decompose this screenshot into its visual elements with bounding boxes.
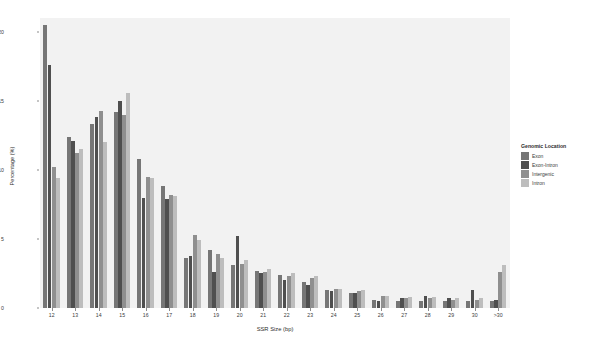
bar — [103, 142, 107, 308]
plot-area — [40, 18, 510, 308]
bar-group — [43, 18, 60, 308]
x-axis-tick-mark — [169, 308, 170, 311]
x-axis-tick-label: 27 — [401, 312, 407, 318]
x-axis-tick-label: >30 — [494, 312, 503, 318]
bar — [432, 297, 436, 308]
legend-items: ExonExon-IntronIntergenicIntron — [521, 152, 591, 187]
x-axis-title: SSR Size (bp) — [40, 326, 510, 332]
x-axis-tick-label: 17 — [166, 312, 172, 318]
x-axis-tick-mark — [334, 308, 335, 311]
y-axis-tick-mark — [37, 238, 39, 239]
bar-group — [372, 18, 389, 308]
bar — [408, 297, 412, 308]
legend-swatch-icon — [521, 161, 529, 169]
y-axis-tick-label: 15 — [0, 98, 4, 104]
y-axis-tick-label: 20 — [0, 29, 4, 35]
bar-group — [90, 18, 107, 308]
bar — [314, 276, 318, 308]
bar — [197, 240, 201, 308]
bar — [56, 178, 60, 308]
legend-item-label: Intergenic — [532, 171, 554, 177]
x-axis-tick-label: 12 — [49, 312, 55, 318]
x-axis-tick-mark — [451, 308, 452, 311]
x-axis-tick-label: 16 — [143, 312, 149, 318]
bar-group — [184, 18, 201, 308]
bar — [126, 93, 130, 308]
legend-item-label: Intron — [532, 180, 545, 186]
bar — [291, 273, 295, 308]
x-axis-tick-mark — [263, 308, 264, 311]
bar — [479, 298, 483, 308]
legend-swatch-icon — [521, 170, 529, 178]
y-axis-tick-mark — [37, 100, 39, 101]
bar-group — [278, 18, 295, 308]
x-axis-tick-label: 20 — [237, 312, 243, 318]
y-axis-tick-label: 0 — [1, 305, 4, 311]
legend-item-label: Exon-Intron — [532, 162, 558, 168]
y-axis: 05101520 — [0, 0, 40, 348]
x-axis-tick-mark — [357, 308, 358, 311]
x-axis-tick-label: 22 — [284, 312, 290, 318]
y-axis-tick-label: 10 — [0, 167, 4, 173]
bar-group — [419, 18, 436, 308]
legend-item[interactable]: Intergenic — [521, 170, 591, 178]
legend-swatch-icon — [521, 152, 529, 160]
x-axis-tick-mark — [498, 308, 499, 311]
bar — [361, 290, 365, 308]
bar — [338, 289, 342, 308]
x-axis-tick-label: 21 — [260, 312, 266, 318]
bar-group — [137, 18, 154, 308]
x-axis-tick-mark — [52, 308, 53, 311]
legend-swatch-icon — [521, 179, 529, 187]
x-axis-tick-mark — [404, 308, 405, 311]
bar-group — [302, 18, 319, 308]
bar — [385, 296, 389, 308]
x-axis-tick-label: 14 — [96, 312, 102, 318]
bar-group — [208, 18, 225, 308]
bar-group — [161, 18, 178, 308]
x-axis-tick-label: 18 — [190, 312, 196, 318]
bar-group — [67, 18, 84, 308]
bar-group — [349, 18, 366, 308]
x-axis-tick-label: 26 — [378, 312, 384, 318]
x-axis-tick-label: 15 — [119, 312, 125, 318]
legend-item[interactable]: Exon-Intron — [521, 161, 591, 169]
x-axis-tick-label: 13 — [72, 312, 78, 318]
x-axis-tick-label: 28 — [425, 312, 431, 318]
x-axis-tick-mark — [146, 308, 147, 311]
bar-group — [255, 18, 272, 308]
x-axis-tick-mark — [99, 308, 100, 311]
x-axis-tick-label: 30 — [472, 312, 478, 318]
x-axis-tick-label: 19 — [213, 312, 219, 318]
bar — [455, 298, 459, 308]
y-axis-tick-mark — [37, 308, 39, 309]
chart-figure: 05101520 Percentage (%) SSR Size (bp) Ge… — [0, 0, 595, 348]
legend-item[interactable]: Intron — [521, 179, 591, 187]
bar — [173, 196, 177, 308]
legend-item[interactable]: Exon — [521, 152, 591, 160]
x-axis-tick-mark — [193, 308, 194, 311]
x-axis-tick-mark — [240, 308, 241, 311]
bar-group — [490, 18, 507, 308]
bar-group — [114, 18, 131, 308]
x-axis-tick-mark — [310, 308, 311, 311]
x-axis-tick-mark — [475, 308, 476, 311]
bar-group — [466, 18, 483, 308]
y-axis-tick-label: 5 — [1, 236, 4, 242]
bar — [79, 149, 83, 308]
x-axis-tick-mark — [216, 308, 217, 311]
bar — [244, 260, 248, 308]
bar — [220, 258, 224, 308]
x-axis-tick-mark — [381, 308, 382, 311]
y-axis-tick-mark — [37, 31, 39, 32]
bar — [502, 265, 506, 308]
bar-group — [231, 18, 248, 308]
legend: Genomic Location ExonExon-IntronIntergen… — [521, 143, 591, 188]
x-axis-tick-label: 23 — [307, 312, 313, 318]
bar-group — [443, 18, 460, 308]
legend-title: Genomic Location — [521, 143, 591, 149]
x-axis-tick-label: 29 — [448, 312, 454, 318]
bar-group — [396, 18, 413, 308]
x-axis-tick-mark — [122, 308, 123, 311]
x-axis-tick-label: 24 — [331, 312, 337, 318]
